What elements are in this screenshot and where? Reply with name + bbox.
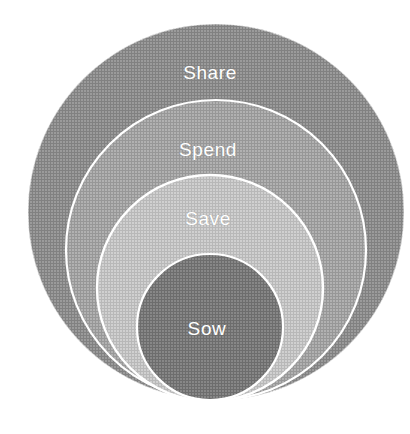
ring-label-spend: Spend [179,139,237,161]
ring-label-share: Share [183,62,237,84]
ring-label-sow: Sow [188,318,227,340]
nested-circles-diagram: Share Spend Save Sow [0,0,410,434]
ring-label-save: Save [185,208,231,230]
